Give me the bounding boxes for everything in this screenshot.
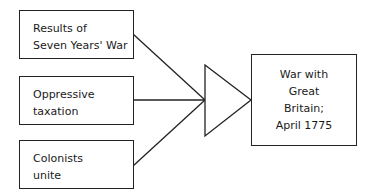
cause-text: Colonists [33, 150, 133, 167]
cause-box-colonists-unite: Colonists unite [19, 140, 134, 189]
connector-line-3 [133, 100, 205, 166]
effect-text: Britain; [276, 100, 333, 117]
cause-text: Seven Years' War [33, 37, 133, 54]
connector-line-1 [133, 34, 205, 100]
cause-box-seven-years-war: Results of Seven Years' War [19, 10, 134, 59]
arrow-triangle-icon [205, 65, 251, 136]
effect-text: War with [276, 66, 333, 83]
cause-text: Results of [33, 20, 133, 37]
cause-text: taxation [33, 103, 133, 120]
effect-text: Great [276, 83, 333, 100]
cause-box-oppressive-taxation: Oppressive taxation [19, 76, 134, 125]
effect-text-block: War with Great Britain; April 1775 [276, 66, 333, 134]
effect-text: April 1775 [276, 117, 333, 134]
effect-box-war-with-britain: War with Great Britain; April 1775 [251, 54, 357, 146]
cause-text: Oppressive [33, 86, 133, 103]
cause-text: unite [33, 167, 133, 184]
